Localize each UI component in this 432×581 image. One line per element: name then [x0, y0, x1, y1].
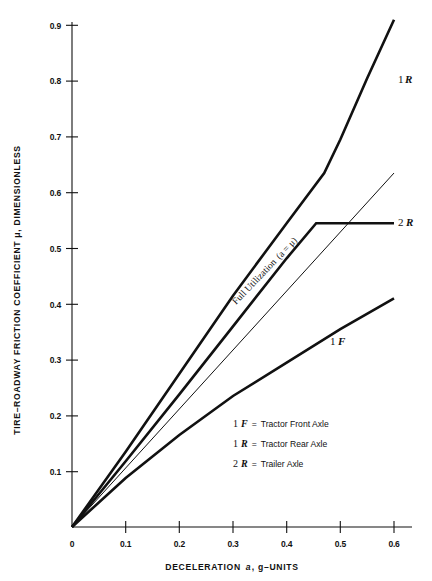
full-utilization-label: Full Utilization(a = μ): [230, 235, 300, 307]
data-curves: [72, 20, 394, 527]
y-tick-label-0.9: 0.9: [50, 21, 62, 31]
x-tick-label-0.2: 0.2: [174, 539, 186, 549]
y-tick-label-0.1: 0.1: [50, 467, 62, 477]
curve-label-1r: 1R: [398, 73, 412, 85]
curve-label-1f: 1F: [330, 335, 346, 347]
y-tick-label-0.4: 0.4: [50, 300, 62, 310]
curve-tractor-front-axle-1f: [72, 298, 394, 527]
full-utilization-annotation: Full Utilization(a = μ): [230, 235, 300, 307]
x-axis-tick-labels: 0 0.1 0.2 0.3 0.4 0.5 0.6: [70, 539, 400, 549]
x-tick-label-0.1: 0.1: [120, 539, 132, 549]
y-tick-label-0.2: 0.2: [50, 411, 62, 421]
x-tick-label-0.5: 0.5: [335, 539, 347, 549]
friction-coefficient-chart: 0.9 0.8 0.7 0.6 0.5 0.4 0.3 0.2 0.1 0 0.…: [0, 0, 432, 581]
y-tick-label-0.5: 0.5: [50, 244, 62, 254]
y-axis-tick-labels: 0.9 0.8 0.7 0.6 0.5 0.4 0.3 0.2 0.1: [50, 21, 62, 477]
axes-group: [72, 22, 412, 527]
y-tick-label-0.7: 0.7: [50, 132, 62, 142]
legend-item-1r: 1R=Tractor Rear Axle: [233, 438, 327, 449]
x-tick-label-0.3: 0.3: [227, 539, 239, 549]
y-axis-title: TIRE–ROADWAY FRICTION COEFFICIENT μ, DIM…: [12, 145, 22, 435]
legend-item-1f: 1F=Tractor Front Axle: [233, 418, 329, 429]
curve-labels: 1R 2R 1F: [330, 73, 413, 347]
curve-tractor-rear-axle-1r: [72, 20, 394, 527]
y-tick-label-0.8: 0.8: [50, 76, 62, 86]
x-tick-label-0.6: 0.6: [388, 539, 400, 549]
y-tick-label-0.3: 0.3: [50, 355, 62, 365]
x-tick-label-0: 0: [70, 539, 75, 549]
chart-container: 0.9 0.8 0.7 0.6 0.5 0.4 0.3 0.2 0.1 0 0.…: [0, 0, 432, 581]
x-axis-title: DECELERATIONa, g–UNITS: [165, 562, 298, 572]
legend-item-2r: 2R=Trailer Axle: [233, 458, 304, 469]
legend: 1F=Tractor Front Axle 1R=Tractor Rear Ax…: [233, 418, 329, 469]
curve-label-2r: 2R: [398, 216, 413, 228]
x-tick-label-0.4: 0.4: [281, 539, 293, 549]
y-tick-label-0.6: 0.6: [50, 188, 62, 198]
curve-full-utilization: [72, 173, 394, 527]
